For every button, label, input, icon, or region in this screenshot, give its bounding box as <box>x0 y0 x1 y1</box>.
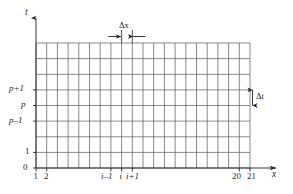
delta-t-label: Δt <box>256 92 264 101</box>
x-tick-label-i-minus-1: i–1 <box>101 172 113 181</box>
y-tick-label-p-minus-1: p–1 <box>9 116 23 125</box>
x-tick-label-21: 21 <box>247 172 256 181</box>
y-axis-label: t <box>25 8 28 18</box>
y-tick-label-0: 0 <box>23 163 28 172</box>
delta-x-annotation <box>109 30 146 43</box>
x-tick-label-i: i <box>120 172 123 181</box>
y-tick-p-plus-1-text: p+1 <box>9 83 24 93</box>
x-tick-i-plus-1-text: i+1 <box>126 171 139 181</box>
x-tick-label-20: 20 <box>232 172 241 181</box>
figure-svg <box>0 0 293 194</box>
delta-t-text: Δt <box>256 91 264 101</box>
y-tick-label-p: p <box>21 100 26 109</box>
axis-lines <box>36 18 276 168</box>
x-tick-label-i-plus-1: i+1 <box>126 172 139 181</box>
delta-x-text: Δx <box>119 20 129 30</box>
delta-x-label: Δx <box>119 21 129 30</box>
grid-figure: t x 0 1 p–1 p p+1 1 2 i–1 i i+1 20 21 Δx… <box>0 0 293 194</box>
y-tick-label-p-plus-1: p+1 <box>9 84 24 93</box>
x-tick-i-text: i <box>120 171 123 181</box>
x-axis-ticks <box>36 168 250 172</box>
y-tick-p-text: p <box>21 99 26 109</box>
y-tick-p-minus-1-text: p–1 <box>9 115 23 125</box>
y-tick-label-1: 1 <box>25 147 30 156</box>
x-tick-i-minus-1-text: i–1 <box>101 171 113 181</box>
x-axis-label: x <box>272 170 276 180</box>
x-tick-label-1: 1 <box>34 172 39 181</box>
x-tick-label-2: 2 <box>44 172 49 181</box>
mesh-grid <box>36 43 250 168</box>
